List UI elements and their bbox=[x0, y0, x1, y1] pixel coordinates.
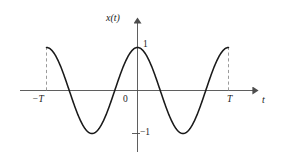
x-axis-label: t bbox=[262, 95, 265, 105]
y-axis-label: x(t) bbox=[106, 13, 120, 23]
origin-label: 0 bbox=[123, 95, 128, 105]
x-tick-label-negative-T: −T bbox=[32, 95, 44, 105]
y-tick-label-negative-one: −1 bbox=[140, 128, 150, 138]
plot-canvas bbox=[0, 0, 282, 164]
x-tick-label-T: T bbox=[227, 95, 232, 105]
y-tick-label-one: 1 bbox=[143, 40, 148, 50]
cosine-waveform-figure: x(t) t 1 −1 0 −T T bbox=[0, 0, 282, 164]
